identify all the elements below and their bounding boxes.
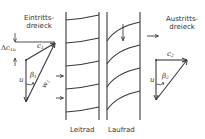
- c1-subscript: 1: [41, 45, 44, 50]
- rotor-label: Laufrad: [108, 126, 135, 134]
- outlet-velocity-triangle: [154, 58, 187, 100]
- stator-label: Leitrad: [70, 126, 94, 134]
- u1-label: u: [19, 77, 24, 84]
- diagram-canvas: Eintritts- dreieck Δc1u c1 u β1 w1 Austr…: [0, 0, 205, 139]
- delta-c-symbol: Δc: [1, 44, 10, 52]
- outflow-arrow: [147, 35, 159, 38]
- u2-symbol: u: [150, 76, 155, 84]
- u1-symbol: u: [19, 76, 24, 84]
- inlet-triangle-title: Eintritts- dreieck: [24, 14, 54, 30]
- beta2-label: β2: [162, 73, 169, 81]
- stator-blade-row: [66, 12, 99, 120]
- rotor-blade-row: [107, 12, 140, 120]
- beta1-subscript: 1: [34, 74, 37, 79]
- outlet-title-line2: dreieck: [166, 23, 198, 31]
- c1-label: c1: [37, 43, 44, 51]
- c2-subscript: 2: [171, 53, 174, 58]
- beta1-label: β1: [30, 72, 37, 80]
- delta-c-subscript: 1u: [10, 47, 16, 52]
- outlet-triangle-title: Austritts- dreieck: [166, 15, 198, 31]
- inflow-arrows: [56, 75, 64, 100]
- inlet-title-line1: Eintritts-: [24, 14, 54, 22]
- inlet-velocity-triangle: [14, 33, 56, 102]
- delta-c1u-label: Δc1u: [1, 45, 16, 53]
- u2-label: u: [150, 77, 155, 84]
- inlet-title-line2: dreieck: [24, 22, 54, 30]
- beta2-subscript: 2: [166, 75, 169, 80]
- c2-label: c2: [167, 51, 174, 59]
- outlet-title-line1: Austritts-: [166, 15, 198, 23]
